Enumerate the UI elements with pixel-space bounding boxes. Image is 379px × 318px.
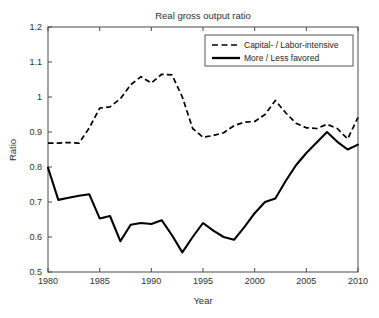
legend-label-more-less: More / Less favored bbox=[244, 53, 319, 63]
series-line-solid bbox=[48, 132, 358, 252]
y-tick-label: 0.7 bbox=[29, 197, 42, 207]
y-tick-label: 1.1 bbox=[29, 57, 42, 67]
real-gross-output-ratio-chart: Real gross output ratio 0.50.60.70.80.91… bbox=[0, 0, 379, 318]
x-tick-label: 2010 bbox=[348, 276, 368, 286]
y-axis-label-group: Ratio bbox=[7, 139, 18, 161]
legend-label-capital-labor: Capital- / Labor-intensive bbox=[244, 40, 339, 50]
chart-title-group: Real gross output ratio bbox=[155, 10, 251, 21]
chart-title: Real gross output ratio bbox=[155, 10, 251, 21]
y-tick-label: 1 bbox=[37, 92, 42, 102]
y-tick-label: 0.8 bbox=[29, 162, 42, 172]
x-tick-label: 1985 bbox=[90, 276, 110, 286]
y-axis-label: Ratio bbox=[7, 139, 18, 161]
x-axis-label: Year bbox=[193, 295, 212, 306]
x-tick-label: 1995 bbox=[193, 276, 213, 286]
x-tick-label: 2005 bbox=[296, 276, 316, 286]
y-tick-label: 0.6 bbox=[29, 232, 42, 242]
data-series-group bbox=[48, 74, 358, 252]
x-tick-label: 1990 bbox=[141, 276, 161, 286]
series-line-dashed bbox=[48, 74, 358, 143]
x-tick-label: 1980 bbox=[38, 276, 58, 286]
y-tick-label: 1.2 bbox=[29, 22, 42, 32]
chart-figure: Real gross output ratio 0.50.60.70.80.91… bbox=[0, 0, 379, 318]
x-axis-label-group: Year bbox=[193, 295, 212, 306]
y-tick-label: 0.9 bbox=[29, 127, 42, 137]
x-tick-label: 2000 bbox=[245, 276, 265, 286]
chart-legend: Capital- / Labor-intensive More / Less f… bbox=[205, 35, 353, 66]
y-axis-ticks: 0.50.60.70.80.911.11.2 bbox=[29, 22, 52, 277]
